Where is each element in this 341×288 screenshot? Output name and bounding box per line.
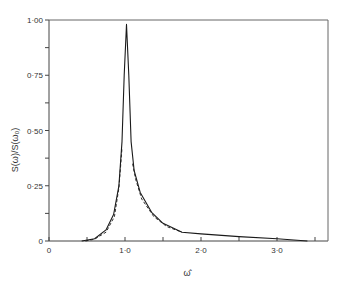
- solid-curve: [82, 24, 308, 241]
- spectrum-chart: 01·02·03·0 00·250·500·751·00 ω̂ S(ω)/S(ω…: [0, 0, 341, 288]
- y-ticks: 00·250·500·751·00: [27, 16, 49, 246]
- data-series: [82, 24, 308, 241]
- dashed-curve: [86, 148, 123, 241]
- y-tick-label: 0: [39, 237, 44, 246]
- dashed-curve: [133, 164, 182, 233]
- x-axis-label: ω̂: [183, 268, 192, 278]
- x-tick-label: 3·0: [271, 246, 283, 255]
- y-tick-label: 0·75: [27, 71, 44, 80]
- y-tick-label: 1·00: [27, 16, 44, 25]
- y-tick-label: 0·25: [27, 182, 44, 191]
- x-tick-label: 0: [47, 246, 52, 255]
- x-tick-label: 2·0: [195, 246, 207, 255]
- y-tick-label: 0·50: [27, 127, 44, 136]
- y-axis-label: S(ω)/S(ω₀): [10, 128, 20, 172]
- plot-frame: [49, 20, 328, 241]
- x-tick-label: 1·0: [119, 246, 131, 255]
